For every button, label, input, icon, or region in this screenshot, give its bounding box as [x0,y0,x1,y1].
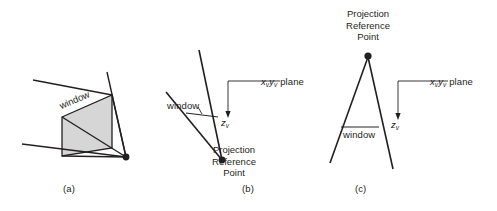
panel-caption-a: (a) [63,183,75,194]
prp-line-point-c: Point [334,31,402,43]
xv-yv-plane-label-b: xvyv plane [261,76,304,88]
prp-line-reference-b: Reference [200,156,268,168]
yv-sub-b: v [274,81,277,88]
prp-line-projection-c: Projection [334,8,402,20]
xv-sub-c: v [435,81,438,88]
view-edge-a-right [112,95,126,157]
panel-c-geometry [330,52,448,169]
zv-sub-c: v [396,124,399,131]
prp-line-reference-c: Reference [334,20,402,32]
yv-sub-c: v [443,81,446,88]
projection-reference-point-dot-c [364,52,371,59]
zv-sub-b: v [226,122,229,129]
view-edge-c-left [330,57,368,163]
prp-line-projection-b: Projection [200,144,268,156]
view-edge-c-right [368,57,393,169]
projection-reference-point-label-c: Projection Reference Point [334,8,402,43]
zv-axis-label-b: zv [221,117,229,129]
view-edge-a-upper-left [33,80,112,95]
zv-axis-label-c: zv [391,119,399,131]
prp-line-point-b: Point [200,167,268,179]
projection-reference-point-dot-a [123,154,130,161]
view-volume-figure: window (a) window xvyv plane zv Projecti… [0,0,497,211]
plane-suffix-c: plane [446,76,472,87]
window-label-b: window [167,100,199,111]
view-edge-a-bottom [62,156,126,157]
projection-reference-point-label-b: Projection Reference Point [200,144,268,179]
xv-yv-plane-label-c: xvyv plane [430,76,473,88]
plane-suffix-b: plane [277,76,303,87]
xv-sub-b: v [266,81,269,88]
panel-caption-c: (c) [355,183,366,194]
window-label-c: window [343,129,375,140]
panel-caption-b: (b) [242,183,254,194]
panel-a-geometry [22,72,129,160]
